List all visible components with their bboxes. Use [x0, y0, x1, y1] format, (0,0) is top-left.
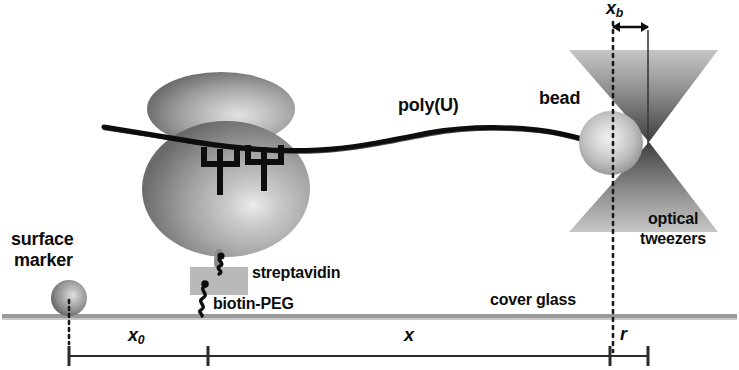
figure-canvas: xb poly(U) bead surface marker streptavi… [0, 0, 739, 370]
label-biotin-peg: biotin-PEG [213, 296, 294, 312]
x0-symbol: x [128, 325, 138, 345]
ribosome-body [142, 72, 310, 266]
label-xb: xb [606, 0, 623, 20]
label-r: r [620, 325, 627, 343]
x0-subscript: 0 [138, 333, 145, 347]
x-symbol: x [404, 325, 414, 345]
xb-symbol: x [606, 0, 616, 18]
measurement-axis [69, 346, 648, 366]
label-x0: x0 [128, 326, 144, 347]
xb-double-arrow [612, 22, 649, 32]
label-surface-marker-line1: surface [11, 230, 74, 248]
diagram-svg [0, 0, 739, 370]
label-optical-line1: optical [648, 211, 698, 227]
label-bead: bead [539, 89, 580, 107]
xb-subscript: b [616, 6, 623, 20]
ribosome-small-subunit [142, 121, 310, 257]
r-symbol: r [620, 324, 627, 344]
label-surface-marker-line2: marker [14, 251, 73, 269]
trapped-bead [579, 111, 643, 175]
label-cover-glass: cover glass [490, 292, 576, 308]
label-x: x [404, 326, 414, 344]
label-streptavidin: streptavidin [252, 265, 340, 281]
label-poly-u: poly(U) [398, 96, 459, 114]
label-optical-line2: tweezers [640, 231, 706, 247]
